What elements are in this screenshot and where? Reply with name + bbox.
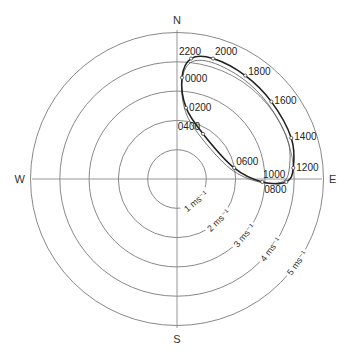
ring-label-5: 5 ms⁻¹ bbox=[283, 246, 310, 279]
point-1200 bbox=[292, 166, 295, 169]
ring-label-4: 4 ms⁻¹ bbox=[256, 233, 284, 265]
point-label-1200: 1200 bbox=[296, 162, 319, 173]
point-0200 bbox=[184, 106, 187, 109]
point-label-1400: 1400 bbox=[294, 131, 317, 142]
ring-label-1: 1 ms⁻¹ bbox=[180, 187, 212, 216]
point-label-1000: 1000 bbox=[263, 169, 286, 180]
west-label: W bbox=[15, 173, 26, 185]
point-label-0800: 0800 bbox=[264, 184, 287, 195]
point-1800 bbox=[244, 74, 247, 77]
point-label-0400: 0400 bbox=[178, 121, 201, 132]
point-1000 bbox=[285, 180, 288, 183]
east-label: E bbox=[329, 173, 336, 185]
point-label-0200: 0200 bbox=[189, 102, 212, 113]
svg-text:1 ms⁻¹: 1 ms⁻¹ bbox=[182, 189, 209, 214]
hodograph-points: 0000020004000600080010001200140016001800… bbox=[178, 46, 319, 195]
svg-text:5 ms⁻¹: 5 ms⁻¹ bbox=[285, 249, 309, 277]
point-0000 bbox=[180, 76, 183, 79]
svg-text:2 ms⁻¹: 2 ms⁻¹ bbox=[205, 207, 232, 234]
north-label: N bbox=[173, 14, 181, 26]
point-label-2200: 2200 bbox=[179, 46, 202, 57]
point-1600 bbox=[270, 100, 273, 103]
svg-text:3 ms⁻¹: 3 ms⁻¹ bbox=[232, 222, 257, 249]
point-label-0000: 0000 bbox=[185, 73, 208, 84]
point-label-1600: 1600 bbox=[274, 95, 297, 106]
hodograph-chart: 1 ms⁻¹2 ms⁻¹3 ms⁻¹4 ms⁻¹5 ms⁻¹ N S E W 0… bbox=[0, 0, 349, 358]
ring-label-2: 2 ms⁻¹ bbox=[203, 205, 233, 235]
ring-label-3: 3 ms⁻¹ bbox=[229, 219, 258, 251]
point-label-0600: 0600 bbox=[236, 156, 259, 167]
svg-text:4 ms⁻¹: 4 ms⁻¹ bbox=[258, 236, 283, 264]
point-2000 bbox=[211, 57, 214, 60]
point-2200 bbox=[189, 57, 192, 60]
point-1400 bbox=[290, 136, 293, 139]
point-label-1800: 1800 bbox=[248, 66, 271, 77]
point-label-2000: 2000 bbox=[215, 46, 238, 57]
point-0400 bbox=[201, 132, 204, 135]
south-label: S bbox=[173, 333, 180, 345]
